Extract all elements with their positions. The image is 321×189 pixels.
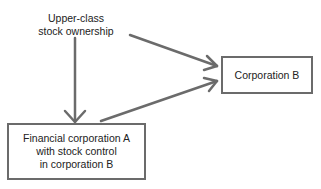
- arrow-a-to-b: [101, 78, 217, 121]
- label-line-2: stock ownership: [20, 25, 132, 38]
- arrow-ownership-to-a: [65, 38, 85, 122]
- corporation-b-box: Corporation B: [221, 56, 313, 94]
- box-a-line-1: Financial corporation A: [23, 132, 130, 145]
- corporation-b-label: Corporation B: [235, 69, 300, 82]
- financial-corporation-a-box: Financial corporation A with stock contr…: [7, 123, 146, 180]
- diagram-canvas: Upper-class stock ownership Corporation …: [0, 0, 321, 189]
- arrow-ownership-to-b: [130, 35, 217, 70]
- box-a-line-2: with stock control: [36, 145, 117, 158]
- upper-class-ownership-label: Upper-class stock ownership: [20, 12, 132, 37]
- box-a-line-3: in corporation B: [40, 158, 114, 171]
- label-line-1: Upper-class: [20, 12, 132, 25]
